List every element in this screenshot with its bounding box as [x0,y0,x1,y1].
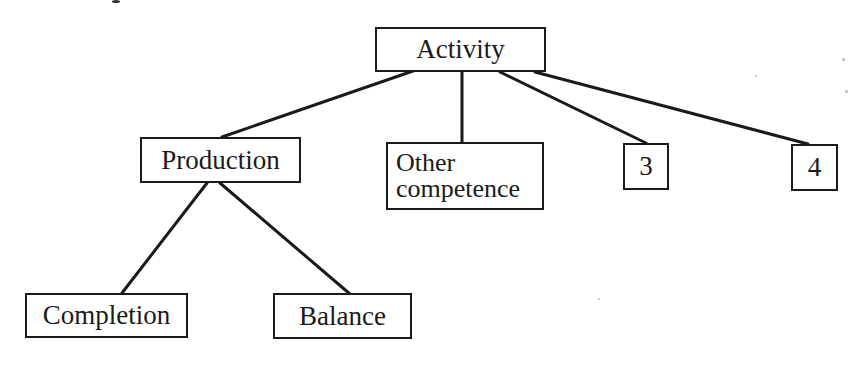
edge-production-balance [220,183,350,294]
node-production-label: Production [161,147,280,174]
node-3: 3 [623,143,669,190]
node-balance: Balance [273,293,412,339]
edge-production-completion [122,183,207,293]
node-other-competence-line2: competence [396,176,520,202]
edge-activity-production [222,71,413,137]
node-production: Production [140,137,301,183]
scan-speck [842,58,845,61]
node-activity-label: Activity [416,36,505,63]
node-completion: Completion [25,293,188,338]
scan-speck [112,0,120,3]
node-4: 4 [791,144,838,191]
node-other-competence: Other competence [386,142,544,210]
node-other-competence-line1: Other [396,150,455,176]
node-balance-label: Balance [299,303,386,330]
node-3-label: 3 [639,153,653,180]
node-4-label: 4 [808,154,822,181]
node-completion-label: Completion [43,302,171,329]
scan-speck [845,90,848,93]
node-activity: Activity [375,27,546,72]
scan-speck [755,75,757,77]
scan-speck [598,298,600,300]
